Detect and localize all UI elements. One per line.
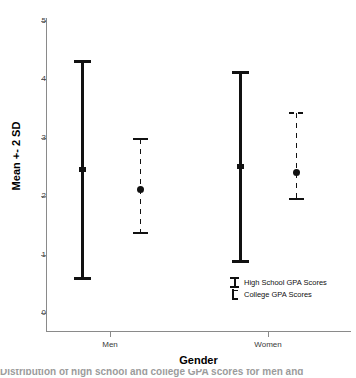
legend-label: High School GPA Scores: [244, 277, 327, 288]
y-tick-label: 4: [20, 75, 46, 83]
solid-errorbar-icon: [229, 277, 240, 288]
y-tick-3: 3: [0, 138, 46, 139]
x-tick-mark-men: [110, 331, 111, 337]
y-tick-label: 1: [20, 251, 46, 259]
cropped-caption-text: Distribution of high school and college …: [0, 369, 356, 377]
errorbar-lower-cap: [289, 198, 304, 200]
dashed-errorbar-icon: [229, 289, 240, 300]
errorbar-lower-cap: [232, 260, 249, 263]
errorbar-mean-marker: [293, 169, 300, 176]
y-tick-2: 2: [0, 196, 46, 197]
legend-item-high-school: High School GPA Scores: [229, 277, 327, 288]
legend: High School GPA Scores College GPA Score…: [229, 277, 327, 301]
cropped-caption: Distribution of high school and college …: [0, 369, 356, 378]
legend-item-college: College GPA Scores: [229, 289, 327, 300]
x-tick-label-men: Men: [70, 340, 150, 349]
y-tick-0: 0: [0, 313, 46, 314]
legend-label: College GPA Scores: [244, 289, 312, 300]
x-axis-title: Gender: [46, 354, 351, 366]
y-tick-5: 5: [0, 21, 46, 22]
y-tick-1: 1: [0, 255, 46, 256]
x-tick-label-women: Women: [228, 340, 308, 349]
chart-figure: 5 4 3 2 1 0 Mean +- 2 SD Men Women Gend: [0, 0, 356, 378]
y-axis-line: [46, 18, 47, 331]
y-tick-label: 5: [20, 17, 46, 25]
errorbar-stem: [296, 113, 298, 199]
y-tick-label: 3: [20, 134, 46, 142]
errorbar-mean-marker: [137, 186, 144, 193]
x-tick-mark-women: [268, 331, 269, 337]
plot-area: 5 4 3 2 1 0 Mean +- 2 SD Men Women Gend: [0, 0, 356, 378]
y-tick-4: 4: [0, 79, 46, 80]
errorbar-mean-marker: [237, 164, 244, 169]
y-tick-label: 2: [20, 192, 46, 200]
errorbar-lower-cap: [133, 232, 148, 234]
x-axis-line: [46, 331, 351, 332]
y-tick-label: 0: [20, 309, 46, 317]
errorbar-mean-marker: [79, 167, 86, 172]
y-axis-title: Mean +- 2 SD: [10, 91, 22, 221]
errorbar-lower-cap: [74, 277, 91, 280]
